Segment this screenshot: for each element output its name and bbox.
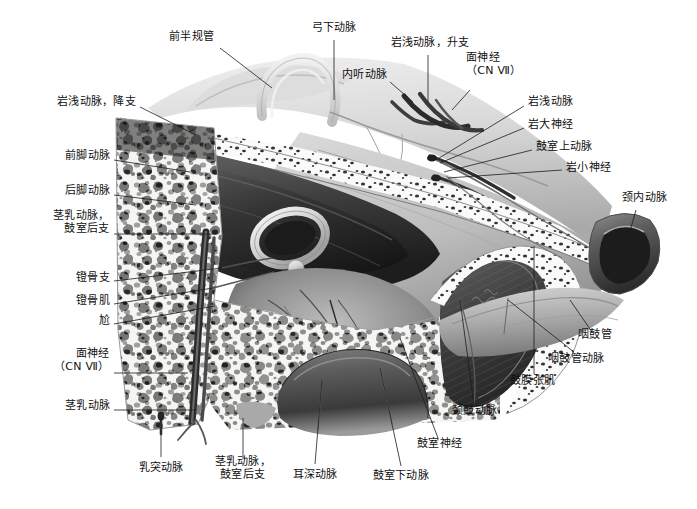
label-promontory: 尬: [99, 314, 110, 327]
label-posterior-crural-artery: 后脚动脉: [65, 184, 110, 197]
label-stylomastoid-artery-post-tympanic-branch-left: 茎乳动脉， 鼓室后支: [53, 209, 110, 235]
label-superior-tympanic-artery: 鼓室上动脉: [536, 140, 593, 153]
label-subarcuate-artery: 弓下动脉: [312, 21, 357, 34]
figure-stage: 前半规管弓下动脉岩浅动脉，升支内听动脉面神经 （CN Ⅶ）岩浅动脉岩大神经鼓室上…: [0, 0, 697, 509]
label-petrosal-artery: 岩浅动脉: [528, 95, 573, 108]
label-stapedial-branch: 镫骨支: [76, 271, 110, 284]
label-deep-auricular-artery: 耳深动脉: [293, 468, 338, 481]
label-mastoid-artery: 乳突动脉: [139, 461, 184, 474]
label-tympanic-nerve: 鼓室神经: [417, 437, 462, 450]
label-facial-nerve-cn7-top: 面神经 （CN Ⅶ）: [466, 51, 522, 77]
label-stylomastoid-artery-post-tympanic-branch-bottom: 茎乳动脉， 鼓室后支: [215, 455, 272, 481]
specimen-body: [110, 56, 660, 444]
label-anterior-crural-artery: 前脚动脉: [65, 149, 110, 162]
label-facial-nerve-cn7-left: 面神经 （CN Ⅶ）: [54, 347, 110, 373]
label-eustachian-tube: 咽鼓管: [578, 328, 612, 341]
label-stylomastoid-artery: 茎乳动脉: [65, 399, 110, 412]
label-internal-auditory-artery: 内听动脉: [342, 68, 387, 81]
label-petrosal-artery-ascending-branch: 岩浅动脉，升支: [391, 36, 470, 49]
label-eustachian-tube-artery: 咽鼓管动脉: [548, 352, 605, 365]
label-petrosal-artery-descending-branch: 岩浅动脉，降支: [57, 95, 136, 108]
label-inferior-tympanic-artery: 鼓室下动脉: [373, 469, 430, 482]
label-carotico-tympanic-artery: 颈鼓动脉: [452, 404, 497, 417]
label-anterior-semicircular-canal: 前半规管: [169, 30, 214, 43]
label-stapedius-muscle: 镫骨肌: [76, 294, 110, 307]
label-greater-petrosal-nerve: 岩大神经: [528, 118, 573, 131]
label-tensor-tympani: 鼓膜张肌: [510, 374, 555, 387]
label-internal-carotid-artery: 颈内动脉: [622, 191, 667, 204]
label-lesser-petrosal-nerve: 岩小神经: [566, 161, 611, 174]
